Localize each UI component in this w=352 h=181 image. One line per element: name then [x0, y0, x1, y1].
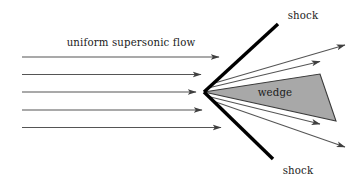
- supersonic-wedge-diagram: uniform supersonic flow wedge shock shoc…: [0, 0, 352, 181]
- shock-label-upper: shock: [288, 10, 319, 21]
- wedge-label: wedge: [258, 87, 293, 98]
- shock-label-lower: shock: [283, 165, 314, 176]
- diagram-canvas: uniform supersonic flow wedge shock shoc…: [0, 0, 352, 181]
- uniform-flow-label: uniform supersonic flow: [67, 37, 196, 48]
